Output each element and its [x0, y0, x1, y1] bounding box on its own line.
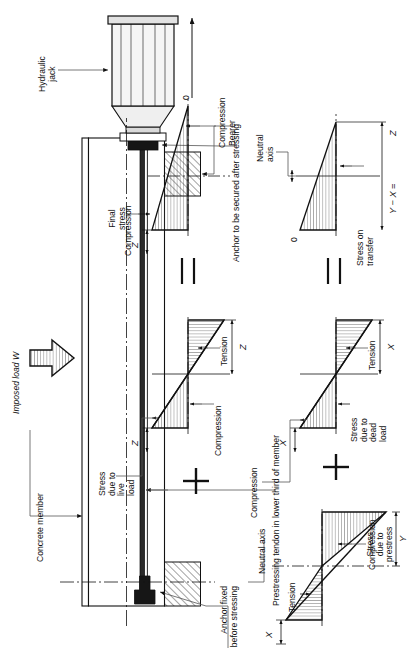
- label-dead-load-compression: Compression: [250, 467, 260, 518]
- dim-live-load-z-bottom: Z: [238, 344, 248, 350]
- label-hydraulic-jack: Hydraulic jack: [38, 56, 57, 92]
- label-final-zero: 0: [182, 95, 192, 100]
- label-live-load-tension: Tension: [220, 336, 230, 366]
- label-anchor-secured: Anchor to be secured after stressing: [232, 124, 242, 262]
- label-final-compression-top: Compression: [124, 205, 134, 256]
- label-live-load-compression: Compression: [214, 405, 224, 456]
- operator-equals-2: [182, 258, 194, 284]
- diagram-transfer: [276, 114, 386, 236]
- figure-linework: [0, 0, 409, 666]
- dim-dead-load-x-top: X: [278, 440, 288, 446]
- dim-prestress-y: Y: [398, 536, 408, 542]
- label-neutral-axis-member: Neutral axis: [258, 529, 268, 574]
- dim-prestress-x: X: [264, 632, 274, 638]
- label-anchor-fixed: Anchor fixed before stressing: [220, 586, 239, 666]
- dim-transfer-y-minus-x: Y − X =: [388, 184, 398, 214]
- label-dead-load-tension: Tension: [368, 340, 378, 370]
- label-prestress-tension: Tension: [288, 582, 298, 612]
- label-transfer-zero: 0: [290, 237, 300, 242]
- imposed-load-arrow: [30, 340, 74, 376]
- label-imposed-load: Imposed load W: [12, 352, 22, 414]
- operator-plus-1: [323, 454, 349, 480]
- label-concrete-member: Concrete member: [36, 493, 46, 562]
- label-prestressing-tendon: Prestressing tendon in lower third of me…: [272, 435, 282, 606]
- dim-dead-load-x-bottom: X: [386, 344, 396, 350]
- label-stress-dead-load-title: Stress due to dead load: [350, 418, 388, 442]
- dim-final-z: Z: [130, 242, 140, 248]
- dim-transfer-z: Z: [388, 130, 398, 136]
- label-prestress-compression: Compression: [368, 519, 378, 570]
- dim-live-load-z-top: Z: [130, 440, 140, 446]
- operator-equals-1: [328, 258, 340, 284]
- label-transfer-neutral-axis: Neutral axis: [256, 134, 275, 162]
- label-stress-transfer-title: Stress on transfer: [356, 230, 375, 266]
- label-final-compression: Compression: [218, 97, 228, 148]
- figure-canvas: Concrete member Hydraulic jack Bearer Im…: [0, 0, 409, 666]
- label-stress-live-load-title: Stress due to live load: [98, 472, 136, 496]
